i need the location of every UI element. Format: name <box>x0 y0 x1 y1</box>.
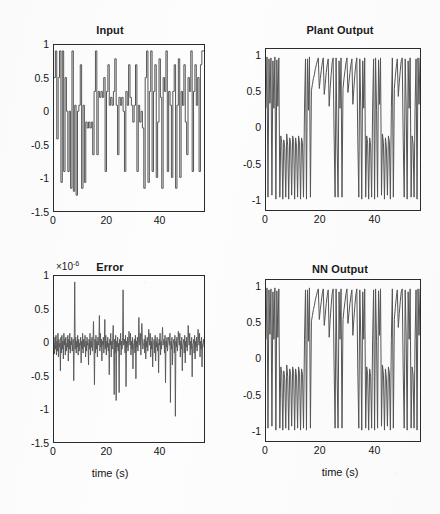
xtick-error-1: 20 <box>92 445 120 457</box>
xtick-nn-output-0: 0 <box>251 444 279 456</box>
ytick-error-4: -1 <box>3 403 49 415</box>
panel-error: Error ×10-6 1 0.5 0 -0.5 -1 -1.5 0 20 40… <box>0 257 220 514</box>
input-series-line <box>54 51 204 195</box>
ytick-input-4: -1 <box>3 172 49 184</box>
xtick-input-2: 40 <box>146 214 174 226</box>
ytick-nn-output-3: -0.5 <box>223 389 261 401</box>
plot-area-input <box>53 44 205 212</box>
ytick-nn-output-0: 1 <box>223 280 261 292</box>
nn-output-series-line <box>266 288 420 430</box>
xtick-plant-output-0: 0 <box>251 213 279 225</box>
ytick-input-0: 1 <box>3 38 49 50</box>
ytick-plant-output-0: 1 <box>223 49 261 61</box>
ytick-error-0: 1 <box>3 269 49 281</box>
panel-plant-output: Plant Output 1 0.5 0 -0.5 -1 0 20 40 <box>220 0 440 257</box>
ytick-error-3: -0.5 <box>3 370 49 382</box>
input-trace-svg <box>54 45 204 211</box>
ytick-error-2: 0 <box>3 336 49 348</box>
axis-exponent-label-error: ×10-6 <box>56 260 79 272</box>
exponent-power: -6 <box>73 260 79 267</box>
ytick-nn-output-4: -1 <box>223 425 261 437</box>
nn-output-trace-svg <box>266 280 420 441</box>
xtick-plant-output-1: 20 <box>306 213 334 225</box>
ytick-plant-output-4: -1 <box>223 194 261 206</box>
panel-title-input: Input <box>15 24 205 36</box>
exponent-mantissa: ×10 <box>56 261 73 272</box>
error-series-line <box>54 282 204 416</box>
xaxis-label-nn-output: time (s) <box>245 466 435 478</box>
xtick-error-0: 0 <box>39 445 67 457</box>
xtick-nn-output-1: 20 <box>306 444 334 456</box>
xtick-plant-output-2: 40 <box>360 213 388 225</box>
plot-area-plant-output <box>265 48 421 211</box>
xaxis-label-error: time (s) <box>15 467 205 479</box>
plant-output-series-line <box>266 57 420 199</box>
ytick-plant-output-3: -0.5 <box>223 158 261 170</box>
ytick-plant-output-1: 0.5 <box>223 85 261 97</box>
panel-nn-output: NN Output 1 0.5 0 -0.5 -1 0 20 40 time (… <box>220 257 440 514</box>
xtick-input-0: 0 <box>39 214 67 226</box>
panel-input: Input 1 0.5 0 -0.5 -1 -1.5 0 20 40 <box>0 0 220 257</box>
ytick-nn-output-2: 0 <box>223 352 261 364</box>
ytick-input-2: 0 <box>3 105 49 117</box>
figure-canvas: Input 1 0.5 0 -0.5 -1 -1.5 0 20 40 Plant… <box>0 0 440 514</box>
plot-area-error <box>53 275 205 443</box>
plot-area-nn-output <box>265 279 421 442</box>
ytick-input-1: 0.5 <box>3 72 49 84</box>
panel-title-nn-output: NN Output <box>245 263 435 275</box>
error-trace-svg <box>54 276 204 442</box>
ytick-input-3: -0.5 <box>3 139 49 151</box>
xtick-input-1: 20 <box>92 214 120 226</box>
ytick-nn-output-1: 0.5 <box>223 316 261 328</box>
ytick-error-1: 0.5 <box>3 303 49 315</box>
plant-output-trace-svg <box>266 49 420 210</box>
xtick-error-2: 40 <box>146 445 174 457</box>
ytick-plant-output-2: 0 <box>223 121 261 133</box>
xtick-nn-output-2: 40 <box>360 444 388 456</box>
panel-title-plant-output: Plant Output <box>245 24 435 36</box>
